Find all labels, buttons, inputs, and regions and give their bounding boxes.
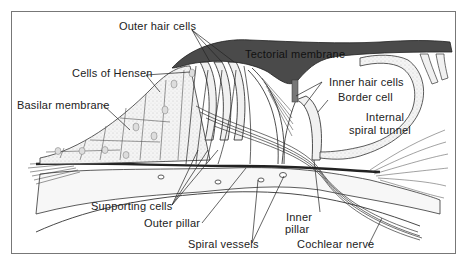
label-inner-hair-cells: Inner hair cells — [329, 76, 404, 88]
label-outer-hair-cells: Outer hair cells — [119, 20, 196, 32]
label-outer-pillar: Outer pillar — [144, 217, 200, 229]
label-spiral-vessels: Spiral vessels — [188, 238, 259, 250]
inner-hair-stereocilia — [292, 80, 298, 102]
label-supporting-cells: Supporting cells — [91, 200, 172, 212]
internal-spiral-sulcus-cells — [320, 55, 424, 159]
inner-hair-cell — [296, 96, 321, 160]
label-basilar-membrane: Basilar membrane — [17, 99, 109, 111]
label-cochlear-nerve: Cochlear nerve — [297, 238, 374, 250]
label-inner-pillar-line1: Inner — [286, 211, 312, 223]
label-tectorial-membrane: Tectorial membrane — [245, 48, 345, 60]
label-internal-spiral-tunnel-line1: Internal — [355, 111, 415, 123]
border-cells-right — [420, 54, 448, 84]
label-inner-pillar-line2: pillar — [285, 223, 309, 235]
label-cells-of-hensen: Cells of Hensen — [72, 67, 153, 79]
label-internal-spiral-tunnel-line2: spiral tunnel — [349, 124, 411, 136]
label-border-cell: Border cell — [338, 91, 393, 103]
